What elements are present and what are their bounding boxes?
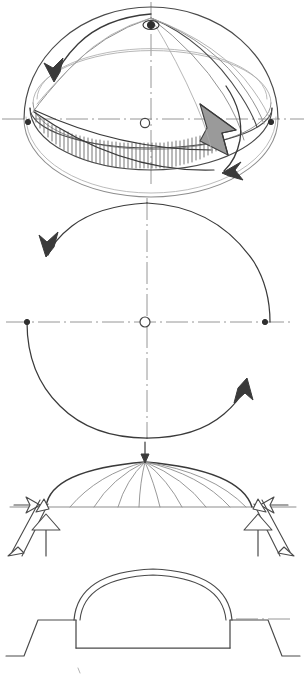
- apex-node: [147, 21, 154, 28]
- plan-left-node: [24, 319, 29, 324]
- center-node: [140, 118, 149, 127]
- right-edge-node: [268, 119, 273, 124]
- left-edge-node: [25, 119, 30, 124]
- drawing-sheet: [0, 0, 306, 675]
- plan-right-node: [262, 319, 267, 324]
- plan-center-node: [140, 317, 150, 327]
- dome-sketch-canvas: [0, 0, 306, 675]
